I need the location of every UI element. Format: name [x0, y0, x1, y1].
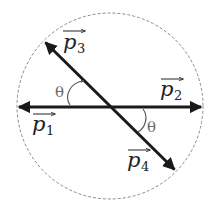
theta-label-upper: θ [55, 83, 64, 101]
vector-subscript: 3 [77, 41, 85, 56]
vector-name: p [127, 148, 140, 172]
vector-diagram: θ θ p 3 p 2 p 1 p 4 [0, 0, 216, 208]
angle-arc-upper-icon [68, 81, 84, 105]
vector-label-p3: p 3 [63, 30, 85, 56]
vector-label-p2: p 2 [160, 77, 183, 103]
vector-subscript: 1 [46, 123, 54, 138]
angle-arc-lower-icon [138, 109, 146, 132]
vector-label-p4: p 4 [127, 148, 150, 174]
vector-label-p1: p 1 [32, 112, 55, 138]
vector-name: p [160, 77, 173, 101]
theta-label-lower: θ [147, 118, 156, 136]
vector-subscript: 4 [141, 159, 149, 174]
vector-name: p [63, 30, 76, 54]
vector-name: p [32, 112, 45, 136]
vector-subscript: 2 [174, 88, 182, 103]
